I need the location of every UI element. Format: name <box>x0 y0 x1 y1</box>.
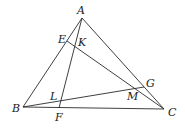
segments-group <box>23 18 164 109</box>
label-A: A <box>76 4 85 17</box>
segment-EC <box>67 41 164 109</box>
segment-BC <box>23 107 164 109</box>
label-F: F <box>54 111 63 124</box>
segment-AF <box>59 18 82 108</box>
label-E: E <box>57 33 66 46</box>
triangle-diagram: A B C E F G K L M <box>0 0 185 128</box>
label-G: G <box>146 77 155 90</box>
label-L: L <box>49 90 57 103</box>
segment-BG <box>23 87 144 107</box>
label-B: B <box>11 102 20 115</box>
label-M: M <box>126 90 139 103</box>
labels-group: A B C E F G K L M <box>11 4 177 124</box>
label-K: K <box>77 36 87 49</box>
label-C: C <box>168 106 177 119</box>
